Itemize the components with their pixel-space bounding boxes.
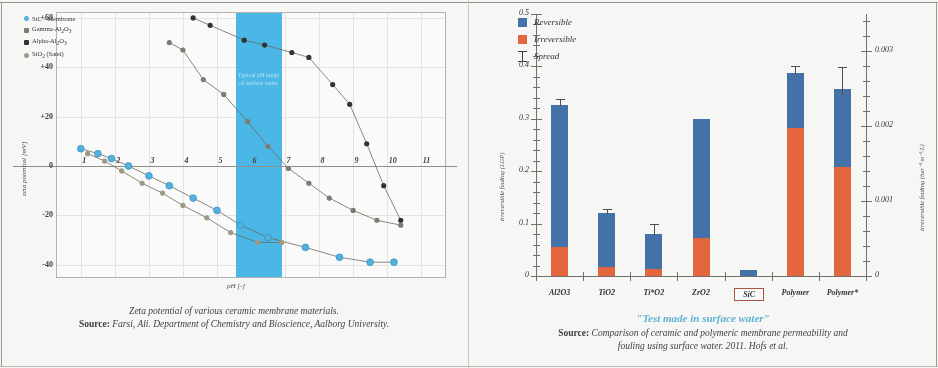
fouling-bar-irreversible-segment xyxy=(645,269,662,276)
fouling-category-label-zro2: ZrO2 xyxy=(677,288,725,297)
zeta-data-point xyxy=(167,40,172,45)
zeta-legend-label: Alpha-Al2O3 xyxy=(32,36,67,49)
fouling-y-tick-right: 0.001 xyxy=(875,195,893,204)
fouling-left-tick xyxy=(533,234,540,235)
zeta-legend-label: SiO2 (Sand) xyxy=(32,49,64,62)
zeta-data-point xyxy=(94,150,101,157)
fouling-bar[interactable] xyxy=(787,73,804,276)
fouling-y-tick-right: 0.003 xyxy=(875,45,893,54)
fouling-right-tick xyxy=(863,96,870,97)
fouling-category-tick xyxy=(772,272,773,281)
zeta-legend-item: Alpha-Al2O3 xyxy=(24,36,124,49)
zeta-series-line xyxy=(169,43,400,226)
fouling-left-tick xyxy=(533,266,540,267)
fouling-legend-item: Irreversible xyxy=(518,31,576,48)
fouling-legend-label: Spread xyxy=(534,48,559,65)
fouling-spread-bar xyxy=(795,66,796,74)
zeta-data-point xyxy=(228,230,233,235)
fouling-legend: ReversibleIrreversibleSpread xyxy=(518,14,576,65)
fouling-bar[interactable] xyxy=(834,89,851,276)
right-caption: Source: Comparison of ceramic and polyme… xyxy=(468,327,938,353)
fouling-right-tick xyxy=(863,36,870,37)
fouling-legend-label: Reversible xyxy=(534,14,572,31)
left-source-text: Farsi, Ali. Department of Chemistry and … xyxy=(110,319,389,329)
right-source-text2: fouling using surface water. 2011. Hofs … xyxy=(468,340,938,353)
zeta-data-point xyxy=(166,182,173,189)
zeta-data-point xyxy=(214,207,221,214)
fouling-left-tick xyxy=(533,161,540,162)
zeta-y-tick: 0 xyxy=(49,161,53,170)
fouling-plot-area: 00.10.20.30.40.500.0010.0020.003Al2O3TiO… xyxy=(536,14,866,276)
zeta-data-point xyxy=(398,223,403,228)
zeta-series-line xyxy=(88,154,282,243)
fouling-bar-reversible-segment xyxy=(740,270,757,276)
fouling-spread-bar xyxy=(654,224,655,236)
fouling-legend-item: Reversible xyxy=(518,14,576,31)
fouling-y-tick-left: 0.2 xyxy=(519,165,529,174)
zeta-data-point xyxy=(336,254,343,261)
fouling-bar-reversible-segment xyxy=(551,105,568,248)
fouling-bar-reversible-segment xyxy=(787,73,804,128)
fouling-bar-chart: 00.10.20.30.40.500.0010.0020.003Al2O3TiO… xyxy=(478,6,930,306)
left-caption-source: Source: Farsi, Ali. Department of Chemis… xyxy=(0,318,468,331)
fouling-y-tick-left: 0 xyxy=(525,270,529,279)
fouling-bar[interactable] xyxy=(598,213,615,276)
zeta-data-point xyxy=(245,119,250,124)
fouling-right-tick xyxy=(863,261,870,262)
fouling-category-tick xyxy=(630,272,631,281)
zeta-data-point xyxy=(119,168,124,173)
test-water-label: "Test made in surface water" xyxy=(468,312,938,324)
legend-marker-icon xyxy=(24,28,29,33)
zeta-data-point xyxy=(180,47,185,52)
fouling-spread-bar xyxy=(842,67,843,95)
fouling-right-tick xyxy=(863,231,870,232)
zeta-data-point xyxy=(208,23,213,28)
zeta-legend-item: SiO2 (Sand) xyxy=(24,49,124,62)
fouling-right-tick xyxy=(863,156,870,157)
fouling-right-tick xyxy=(861,126,872,127)
zeta-data-point xyxy=(351,208,356,213)
legend-reversible-swatch-icon xyxy=(518,18,527,27)
fouling-right-tick xyxy=(863,66,870,67)
fouling-left-tick xyxy=(531,224,542,225)
zeta-legend-label: Gamma-Al2O3 xyxy=(32,24,71,37)
zeta-data-point xyxy=(306,181,311,186)
zeta-data-point xyxy=(262,42,267,47)
zeta-data-point xyxy=(367,259,374,266)
fouling-left-tick xyxy=(533,192,540,193)
zeta-data-point xyxy=(306,55,311,60)
zeta-data-point xyxy=(327,195,332,200)
fouling-bar-reversible-segment xyxy=(693,119,710,238)
zeta-y-tick: +40 xyxy=(40,62,53,71)
zeta-data-point xyxy=(77,145,84,152)
fouling-left-tick xyxy=(531,66,542,67)
fouling-bar[interactable] xyxy=(551,105,568,276)
fouling-bar[interactable] xyxy=(740,270,757,276)
zeta-data-point xyxy=(391,259,398,266)
zeta-data-point xyxy=(204,215,209,220)
fouling-bar-reversible-segment xyxy=(645,234,662,270)
zeta-legend-label: SiC - Membrane xyxy=(32,14,75,24)
fouling-category-tick xyxy=(819,272,820,281)
zeta-y-tick: -20 xyxy=(42,210,53,219)
legend-marker-icon xyxy=(24,16,29,21)
fouling-y-tick-right: 0 xyxy=(875,270,879,279)
fouling-right-tick xyxy=(863,81,870,82)
zeta-data-point xyxy=(302,244,309,251)
zeta-x-axis-label: pH [-] xyxy=(10,282,462,290)
fouling-right-tick xyxy=(861,201,872,202)
fouling-left-tick xyxy=(533,140,540,141)
zeta-series-line xyxy=(193,18,401,220)
zeta-data-point xyxy=(237,222,244,229)
fouling-baseline xyxy=(536,276,866,277)
legend-spread-glyph-icon xyxy=(518,51,527,62)
fouling-bar-reversible-segment xyxy=(834,89,851,167)
zeta-legend-item: Gamma-Al2O3 xyxy=(24,24,124,37)
zeta-data-point xyxy=(221,92,226,97)
figure-page: Typical pH range of surface water+60+40+… xyxy=(0,0,938,368)
fouling-bar[interactable] xyxy=(693,119,710,276)
legend-marker-icon xyxy=(24,40,29,45)
bottom-rule xyxy=(0,366,938,367)
fouling-bar[interactable] xyxy=(645,234,662,276)
fouling-left-tick xyxy=(533,203,540,204)
